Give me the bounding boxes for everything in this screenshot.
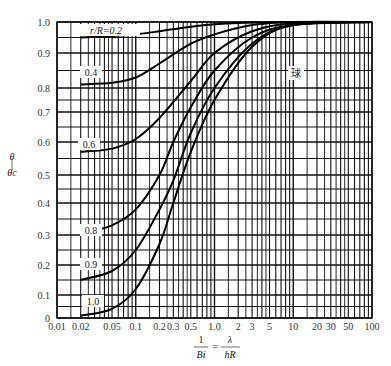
x-label-right-den: hR	[224, 349, 235, 360]
y-tick-label: 0	[45, 313, 50, 324]
x-axis-ticks: 0.010.020.050.10.20.30.51.02351020305010…	[48, 321, 379, 332]
x-tick-label: 0.01	[48, 321, 66, 332]
x-tick-label: 100	[365, 321, 380, 332]
x-label-right-num: λ	[227, 334, 233, 345]
x-tick-label: 0.02	[72, 321, 90, 332]
series-label-1.0: 1.0	[87, 296, 100, 307]
x-tick-label: 2	[236, 321, 241, 332]
x-axis-label: 1 Bi = λ hR	[194, 334, 240, 360]
y-tick-label: 0.7	[38, 107, 51, 118]
x-label-left-den: Bi	[197, 349, 206, 360]
y-tick-label: 0.1	[38, 290, 51, 301]
series-label-0.2: r/R=0.2	[90, 25, 122, 36]
x-tick-label: 30	[326, 321, 336, 332]
x-tick-label: 0.2	[153, 321, 166, 332]
y-label-den: θc	[7, 167, 17, 178]
y-tick-label: 0.6	[38, 137, 51, 148]
chart: 0.010.020.050.10.20.30.51.02351020305010…	[0, 0, 391, 366]
x-label-eq: =	[212, 341, 218, 352]
y-tick-label: 0.2	[38, 260, 51, 271]
x-tick-label: 0.3	[167, 321, 180, 332]
y-tick-label: 1.0	[38, 17, 51, 28]
y-axis-ticks: 00.10.20.30.40.50.60.70.80.91.0	[38, 17, 51, 324]
annotation-sphere: 球	[288, 66, 304, 80]
x-tick-label: 0.05	[103, 321, 121, 332]
series-label-0.9: 0.9	[85, 259, 98, 270]
y-tick-label: 0.4	[38, 198, 51, 209]
x-tick-label: 0.1	[130, 321, 143, 332]
x-tick-label: 5	[267, 321, 272, 332]
x-tick-label: 1.0	[208, 321, 221, 332]
x-tick-label: 10	[288, 321, 298, 332]
annotation-label: 球	[291, 67, 301, 79]
x-tick-label: 20	[312, 321, 322, 332]
series-label-0.8: 0.8	[85, 225, 98, 236]
y-axis-label: θ θc	[7, 151, 17, 178]
x-tick-label: 3	[250, 321, 255, 332]
x-label-left-num: 1	[199, 334, 204, 345]
series-label-0.6: 0.6	[83, 139, 96, 150]
y-tick-label: 0.9	[38, 48, 51, 59]
y-tick-label: 0.8	[38, 83, 51, 94]
y-tick-label: 0.5	[38, 170, 51, 181]
x-tick-label: 50	[343, 321, 353, 332]
y-tick-label: 0.3	[38, 230, 51, 241]
x-tick-label: 0.5	[185, 321, 198, 332]
series-label-0.4: 0.4	[85, 67, 98, 78]
